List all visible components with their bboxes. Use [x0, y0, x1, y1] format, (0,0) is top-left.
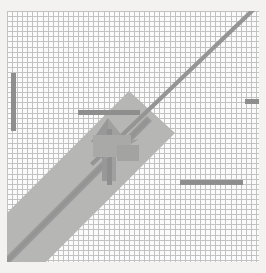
right-edge-dash-mark[interactable]: [245, 99, 259, 104]
left-vertical-bar-mark[interactable]: [11, 73, 16, 131]
app-root: [0, 0, 266, 273]
top-horizontal-bar-mark[interactable]: [78, 110, 140, 115]
bottom-right-horizontal-bar-mark[interactable]: [180, 180, 243, 185]
graph-paper-canvas[interactable]: [7, 11, 259, 262]
drawing-layer[interactable]: [7, 11, 259, 262]
vector-artwork: [7, 11, 259, 262]
